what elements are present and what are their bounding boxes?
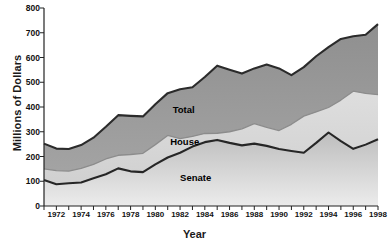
series-label-house: House [170, 136, 199, 147]
series-label-senate: Senate [180, 172, 211, 183]
x-tick-label: 1998 [361, 210, 389, 219]
chart-container: Millions of Dollars Year 010020030040050… [0, 0, 389, 247]
series-label-total: Total [173, 104, 195, 115]
